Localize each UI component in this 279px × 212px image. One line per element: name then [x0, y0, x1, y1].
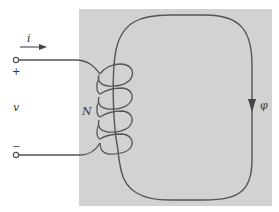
magnetic-core [79, 9, 272, 206]
flux-label: φ [260, 99, 268, 112]
current-arrow-icon [39, 44, 47, 50]
plus-sign: + [12, 66, 20, 77]
negative-terminal [13, 152, 18, 157]
positive-terminal [13, 57, 18, 62]
voltage-label: v [13, 101, 20, 114]
current-label: i [27, 32, 31, 45]
magnetic-circuit-diagram: φ + − i v N [0, 0, 279, 212]
minus-sign: − [12, 141, 20, 152]
turns-label: N [81, 105, 92, 118]
